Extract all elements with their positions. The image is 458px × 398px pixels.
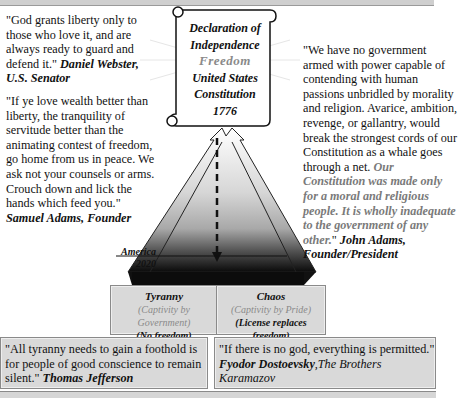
- quote-author: Samuel Adams, Founder: [6, 211, 131, 225]
- scroll-freedom: Freedom: [180, 53, 270, 70]
- quote-samuel-adams: "If ye love wealth better than liberty, …: [6, 94, 156, 225]
- outcome-title: Chaos: [217, 290, 325, 303]
- outcome-subtitle: (Captivity by Pride): [217, 303, 325, 316]
- scroll-line-5: Constitution: [180, 86, 270, 103]
- quote-webster: "God grants liberty only to those who lo…: [6, 13, 151, 86]
- outcome-title: Tyranny: [111, 290, 217, 303]
- scroll-line-2: Independence: [180, 37, 270, 54]
- converging-arrows-icon: [128, 128, 316, 285]
- quote-author: Fyodor Dostoevsky: [219, 357, 315, 371]
- outcome-chaos: Chaos (Captivity by Pride) (License repl…: [216, 285, 326, 335]
- outcome-subtitle: (Captivity by Government): [111, 303, 217, 329]
- scroll-text: Declaration of Independence Freedom Unit…: [180, 20, 270, 119]
- timeline-year: 2020: [116, 258, 156, 270]
- timeline-country: America: [116, 246, 156, 258]
- quote-close: ": [332, 233, 340, 247]
- scroll-line-4: United States: [180, 70, 270, 87]
- quote-john-adams: "We have no government armed with power …: [303, 43, 458, 262]
- timeline-label: America 2020: [116, 246, 156, 270]
- quote-jefferson: "All tyranny needs to gain a foothold is…: [0, 337, 208, 389]
- quote-text: "If ye love wealth better than liberty, …: [6, 94, 154, 210]
- quote-text: "We have no government armed with power …: [303, 43, 457, 174]
- quote-text: "If there is no god, everything is permi…: [219, 342, 434, 356]
- quote-dostoevsky: "If there is no god, everything is permi…: [214, 337, 436, 389]
- outcome-tyranny: Tyranny (Captivity by Government) (No fr…: [110, 285, 218, 335]
- bottom-border: [0, 391, 436, 398]
- quote-author: Thomas Jefferson: [42, 371, 133, 385]
- scroll-line-1: Declaration of: [180, 20, 270, 37]
- scroll-year: 1776: [180, 103, 270, 120]
